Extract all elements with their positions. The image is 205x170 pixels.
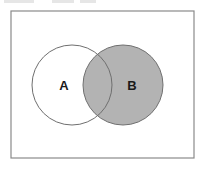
set-a-label: A	[59, 78, 69, 93]
venn-diagram-canvas: A B	[0, 0, 205, 170]
venn-diagram-figure: A B	[0, 0, 205, 170]
set-b-label: B	[127, 78, 136, 93]
